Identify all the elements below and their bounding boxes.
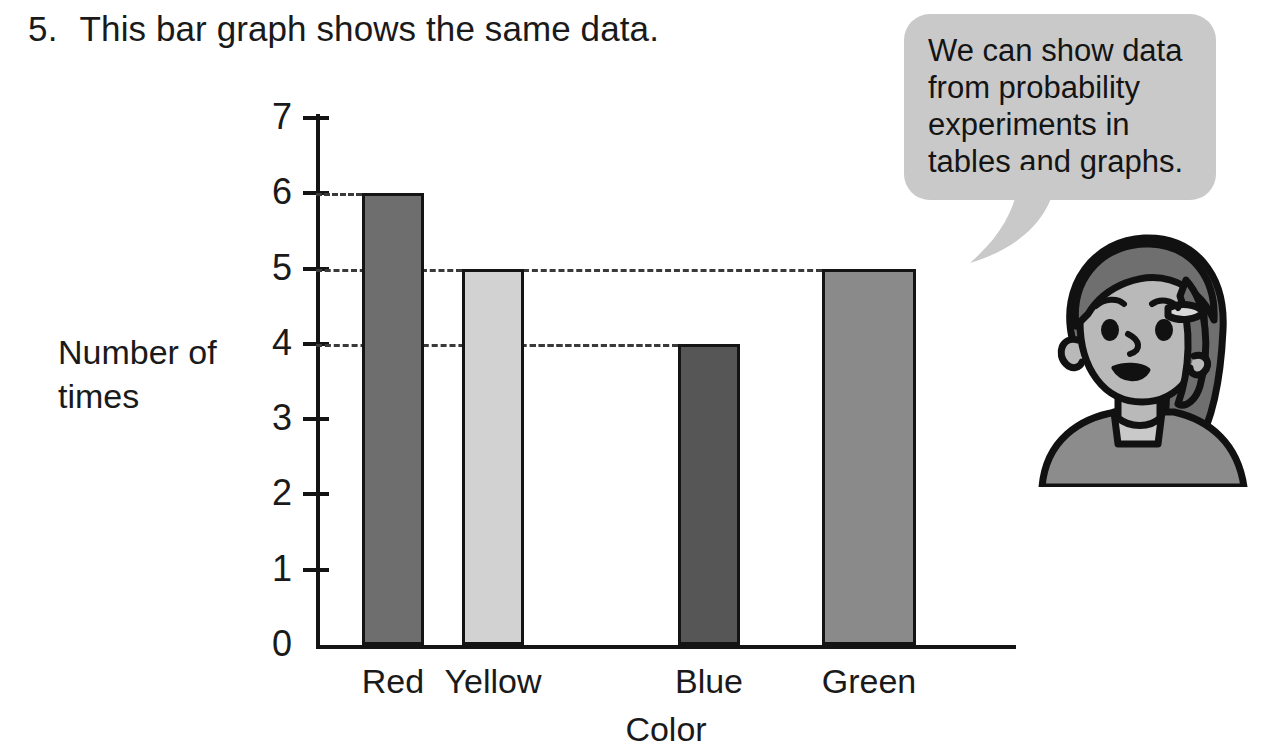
speech-bubble-text: We can show data from probability experi… bbox=[928, 32, 1196, 180]
y-axis-tick-label: 1 bbox=[232, 551, 292, 587]
y-axis-tick-label: 0 bbox=[232, 626, 292, 662]
y-axis-tick bbox=[303, 492, 329, 496]
gridline bbox=[316, 193, 362, 196]
y-axis-tick-label: 2 bbox=[232, 475, 292, 511]
gridline bbox=[530, 344, 678, 347]
bar-yellow bbox=[462, 269, 524, 645]
bar-chart: Number of times 01234567 RedYellowBlueGr… bbox=[0, 0, 1020, 749]
worksheet-page: 5. This bar graph shows the same data. N… bbox=[0, 0, 1268, 749]
y-axis-tick bbox=[303, 568, 329, 572]
y-axis-tick bbox=[303, 417, 329, 421]
bar-green bbox=[822, 269, 916, 645]
y-axis-tick bbox=[303, 116, 329, 120]
x-axis-label-blue: Blue bbox=[634, 664, 784, 698]
x-axis-line bbox=[316, 645, 1016, 649]
gridline bbox=[523, 269, 822, 272]
x-axis-label-green: Green bbox=[794, 664, 944, 698]
girl-illustration bbox=[1018, 222, 1268, 487]
y-axis-tick-label: 7 bbox=[232, 99, 292, 135]
bar-red bbox=[362, 193, 424, 645]
bar-blue bbox=[678, 344, 740, 645]
y-axis-tick-label: 4 bbox=[232, 325, 292, 361]
x-axis-label-yellow: Yellow bbox=[418, 664, 568, 698]
y-axis-tick-label: 3 bbox=[232, 400, 292, 436]
x-axis-title: Color bbox=[316, 712, 1016, 746]
y-axis-tick-label: 6 bbox=[232, 174, 292, 210]
y-axis-tick-label: 5 bbox=[232, 250, 292, 286]
